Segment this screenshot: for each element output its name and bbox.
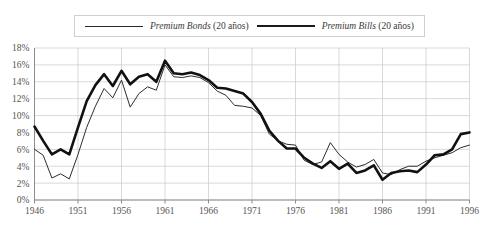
x-gridlines: [35, 48, 470, 200]
chart-figure: Premium Bonds (20 años) Premium Bills (2…: [0, 0, 485, 229]
x-axis-tick-label: 1976: [286, 206, 305, 216]
y-axis-tick-label: 0%: [17, 195, 30, 205]
x-axis-tick-labels: 1946195119561961196619711976198119861991…: [25, 206, 479, 216]
x-axis-tick-label: 1971: [243, 206, 262, 216]
x-axis-tick-label: 1981: [330, 206, 349, 216]
x-axis-tick-label: 1956: [112, 206, 131, 216]
y-axis-tick-label: 12%: [12, 94, 30, 104]
x-axis-tick-label: 1986: [373, 206, 392, 216]
y-axis-tick-label: 8%: [17, 128, 30, 138]
x-axis-tick-label: 1966: [199, 206, 218, 216]
x-axis-tick-label: 1991: [417, 206, 436, 216]
y-axis-tick-labels: 18%16%14%12%10%8%6%4%2%0%: [12, 43, 30, 205]
x-axis-tick-label: 1996: [460, 206, 479, 216]
y-axis-tick-label: 14%: [12, 77, 30, 87]
y-axis-tick-label: 4%: [17, 162, 30, 172]
y-axis-tick-label: 18%: [12, 43, 30, 53]
x-axis-tickmarks: [35, 200, 470, 204]
y-axis-tick-label: 6%: [17, 145, 30, 155]
x-axis-tick-label: 1946: [25, 206, 44, 216]
x-axis-tick-label: 1961: [156, 206, 175, 216]
y-axis-tick-label: 16%: [12, 60, 30, 70]
chart-plot-area: 18%16%14%12%10%8%6%4%2%0% 19461951195619…: [0, 0, 485, 229]
x-axis-tick-label: 1951: [69, 206, 88, 216]
y-axis-tick-label: 10%: [12, 111, 30, 121]
y-axis-tick-label: 2%: [17, 179, 30, 189]
